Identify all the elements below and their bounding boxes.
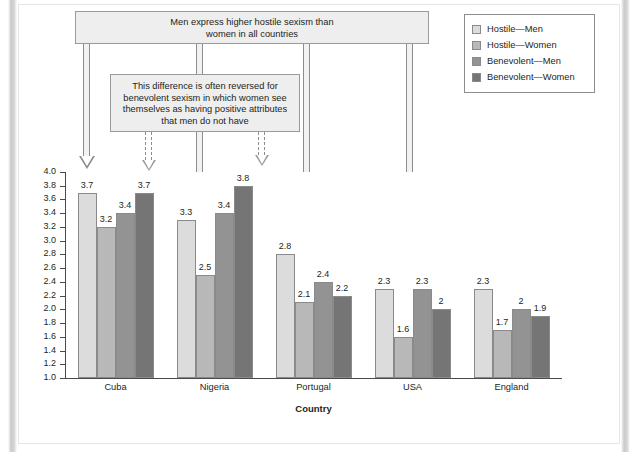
bar-portugal-hostile-women[interactable]: [295, 302, 314, 378]
y-tick-label: 1.2: [28, 358, 56, 368]
bar-value-label: 2.3: [409, 276, 435, 286]
bar-portugal-benevolent-men[interactable]: [314, 282, 333, 378]
callout-top-line-2: women in all countries: [76, 29, 428, 41]
y-tick-label: 2.0: [28, 303, 56, 313]
arrow-head-cuba: [79, 156, 95, 169]
bar-england-hostile-men[interactable]: [474, 289, 493, 378]
arrow-shaft-benevolent-cuba: [145, 132, 152, 160]
callout-hostile-sexism: Men express higher hostile sexism than w…: [75, 11, 429, 44]
legend-label-benevolent-women: Benevolent—Women: [487, 72, 575, 82]
arrow-shaft-benevolent-nigeria: [258, 132, 265, 155]
page-edge-shadow-right: [621, 0, 630, 452]
arrow-head-benevolent-cuba: [142, 160, 156, 171]
bar-value-label: 1.9: [527, 303, 553, 313]
bar-england-benevolent-women[interactable]: [531, 316, 550, 378]
bar-group-nigeria: 3.32.53.43.8Nigeria: [165, 172, 264, 378]
bar-cuba-benevolent-men[interactable]: [116, 213, 135, 378]
x-tick-label-portugal: Portugal: [264, 382, 363, 392]
legend-label-benevolent-men: Benevolent—Men: [487, 56, 561, 66]
bar-value-label: 2.4: [310, 269, 336, 279]
y-tick-label: 3.0: [28, 235, 56, 245]
x-tick-label-cuba: Cuba: [66, 382, 165, 392]
arrow-shaft-cuba: [83, 44, 90, 156]
y-tick-label: 1.0: [28, 372, 56, 382]
bar-cuba-benevolent-women[interactable]: [135, 193, 154, 378]
bar-value-label: 2.2: [329, 283, 355, 293]
bar-nigeria-hostile-men[interactable]: [177, 220, 196, 378]
y-tick-label: 1.4: [28, 345, 56, 355]
page-edge-shadow-left: [8, 0, 17, 452]
y-tick-label: 4.0: [28, 166, 56, 176]
bar-value-label: 3.3: [173, 207, 199, 217]
y-tick-label: 2.4: [28, 276, 56, 286]
y-tick-label: 1.6: [28, 331, 56, 341]
callout-top-line-1: Men express higher hostile sexism than: [76, 17, 428, 29]
bar-value-label: 3.8: [230, 173, 256, 183]
y-tick-label: 2.6: [28, 262, 56, 272]
y-tick-mark: [60, 378, 66, 379]
y-tick-label: 2.2: [28, 290, 56, 300]
legend-item-benevolent-men: Benevolent—Men: [472, 53, 587, 69]
plot-area: 3.73.23.43.7Cuba3.32.53.43.8Nigeria2.82.…: [66, 172, 561, 378]
callout-second-line-1: This difference is often reversed for: [111, 81, 299, 93]
bar-value-label: 2.8: [272, 241, 298, 251]
bar-group-england: 2.31.721.9England: [462, 172, 561, 378]
y-tick-label: 2.8: [28, 248, 56, 258]
bar-value-label: 3.7: [131, 180, 157, 190]
bar-england-benevolent-men[interactable]: [512, 309, 531, 378]
x-tick-label-usa: USA: [363, 382, 462, 392]
arrow-head-benevolent-nigeria: [255, 155, 269, 166]
y-tick-label: 3.6: [28, 193, 56, 203]
legend-swatch-benevolent-women: [472, 73, 481, 82]
callout-second-line-3: themselves as having positive attributes: [111, 104, 299, 116]
x-axis-title: Country: [66, 403, 561, 414]
bar-group-portugal: 2.82.12.42.2Portugal: [264, 172, 363, 378]
x-tick-label-nigeria: Nigeria: [165, 382, 264, 392]
legend-item-hostile-men: Hostile—Men: [472, 21, 587, 37]
callout-second-line-2: benevolent sexism in which women see: [111, 93, 299, 105]
callout-benevolent-sexism: This difference is often reversed for be…: [110, 74, 300, 132]
legend-label-hostile-women: Hostile—Women: [487, 40, 557, 50]
bar-value-label: 2.3: [371, 276, 397, 286]
bar-portugal-benevolent-women[interactable]: [333, 296, 352, 378]
bar-cuba-hostile-women[interactable]: [97, 227, 116, 378]
bar-usa-benevolent-women[interactable]: [432, 309, 451, 378]
y-tick-label: 3.8: [28, 180, 56, 190]
legend-swatch-hostile-women: [472, 41, 481, 50]
bar-value-label: 3.7: [74, 180, 100, 190]
bar-group-cuba: 3.73.23.43.7Cuba: [66, 172, 165, 378]
bar-nigeria-benevolent-men[interactable]: [215, 213, 234, 378]
x-tick-label-england: England: [462, 382, 561, 392]
bar-group-usa: 2.31.62.32USA: [363, 172, 462, 378]
bar-value-label: 2.3: [470, 276, 496, 286]
bar-value-label: 2: [428, 296, 454, 306]
y-tick-label: 1.8: [28, 317, 56, 327]
legend-swatch-benevolent-men: [472, 57, 481, 66]
bar-portugal-hostile-men[interactable]: [276, 254, 295, 378]
legend-item-hostile-women: Hostile—Women: [472, 37, 587, 53]
figure-canvas: Men express higher hostile sexism than w…: [0, 0, 638, 452]
x-axis-line: [65, 378, 562, 379]
bar-usa-hostile-women[interactable]: [394, 337, 413, 378]
callout-second-line-4: that men do not have: [111, 116, 299, 128]
bar-england-hostile-women[interactable]: [493, 330, 512, 378]
legend-swatch-hostile-men: [472, 25, 481, 34]
legend-item-benevolent-women: Benevolent—Women: [472, 69, 587, 85]
chart-legend: Hostile—Men Hostile—Women Benevolent—Men…: [464, 14, 595, 93]
y-tick-label: 3.2: [28, 221, 56, 231]
bar-nigeria-benevolent-women[interactable]: [234, 186, 253, 378]
y-tick-label: 3.4: [28, 207, 56, 217]
bar-nigeria-hostile-women[interactable]: [196, 275, 215, 378]
legend-label-hostile-men: Hostile—Men: [487, 24, 543, 34]
